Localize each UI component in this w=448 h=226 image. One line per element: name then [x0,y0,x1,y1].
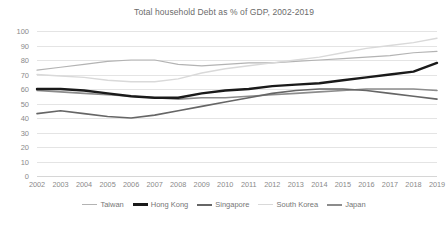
y-axis-tick-40: 40 [21,114,29,123]
plot-area [37,31,437,176]
x-axis-tick-2013: 2013 [288,180,304,189]
legend-label: Japan [345,200,365,209]
legend-swatch-icon [258,204,273,205]
legend-item-japan[interactable]: Japan [327,200,365,209]
legend-item-south-korea[interactable]: South Korea [258,200,318,209]
y-axis-tick-50: 50 [21,99,29,108]
y-axis: 1009080706050403020100 [0,31,33,176]
chart-legend: TaiwanHong KongSingaporeSouth KoreaJapan [0,200,448,209]
series-lines [37,31,437,176]
y-axis-tick-70: 70 [21,70,29,79]
legend-label: Singapore [215,200,249,209]
x-axis-tick-2017: 2017 [382,180,398,189]
x-axis-tick-2011: 2011 [241,180,257,189]
y-axis-tick-10: 10 [21,157,29,166]
x-axis-tick-2018: 2018 [405,180,421,189]
chart-container: Total household Debt as % of GDP, 2002-2… [0,0,448,226]
x-axis-tick-2015: 2015 [335,180,351,189]
x-axis-tick-2003: 2003 [52,180,68,189]
y-axis-tick-100: 100 [16,27,29,36]
gridline-0 [37,176,437,177]
y-axis-tick-30: 30 [21,128,29,137]
x-axis-tick-2005: 2005 [99,180,115,189]
x-axis: 2002200320042005200620072008200920102011… [37,180,437,192]
x-axis-tick-2002: 2002 [29,180,45,189]
legend-swatch-icon [133,203,148,206]
legend-label: South Korea [276,200,318,209]
y-axis-tick-60: 60 [21,85,29,94]
chart-title: Total household Debt as % of GDP, 2002-2… [0,7,448,17]
x-axis-tick-2008: 2008 [170,180,186,189]
y-axis-tick-20: 20 [21,143,29,152]
y-axis-tick-90: 90 [21,41,29,50]
x-axis-tick-2009: 2009 [194,180,210,189]
x-axis-tick-2014: 2014 [311,180,327,189]
legend-swatch-icon [327,204,342,206]
x-axis-tick-2016: 2016 [358,180,374,189]
legend-item-singapore[interactable]: Singapore [197,200,249,209]
legend-item-taiwan[interactable]: Taiwan [82,200,123,209]
x-axis-tick-2007: 2007 [147,180,163,189]
x-axis-tick-2012: 2012 [264,180,280,189]
legend-label: Taiwan [100,200,123,209]
x-axis-tick-2004: 2004 [76,180,92,189]
legend-item-hong-kong[interactable]: Hong Kong [133,200,189,209]
legend-swatch-icon [82,204,97,205]
y-axis-tick-80: 80 [21,56,29,65]
legend-label: Hong Kong [151,200,189,209]
legend-swatch-icon [197,204,212,206]
x-axis-tick-2010: 2010 [217,180,233,189]
x-axis-tick-2019: 2019 [429,180,445,189]
x-axis-tick-2006: 2006 [123,180,139,189]
